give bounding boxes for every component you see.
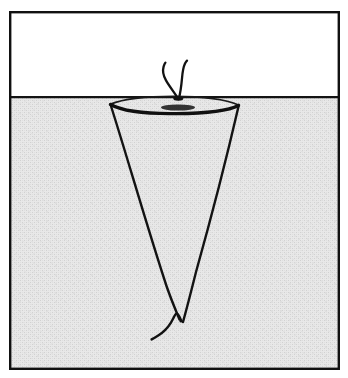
water-texture-coarse [11,97,338,368]
cord-knot [173,96,183,100]
air-region [11,13,338,97]
rim-bridle-thickening [161,104,195,110]
net-in-water-diagram [0,0,348,378]
figure-container: Conical net suspended in water Line draw… [0,0,348,378]
